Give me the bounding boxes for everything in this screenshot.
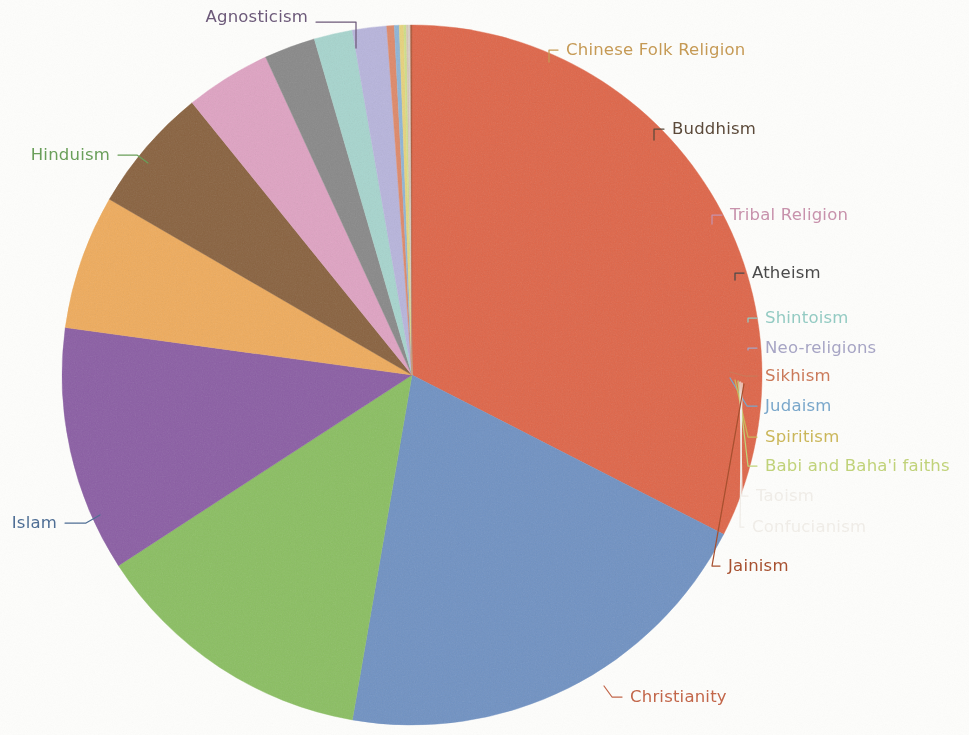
- slice-label-chinese-folk[interactable]: Chinese Folk Religion: [566, 42, 745, 59]
- slice-label-spiritism[interactable]: Spiritism: [765, 429, 839, 446]
- slice-label-jainism[interactable]: Jainism: [728, 558, 789, 575]
- pie-chart-figure: AgnosticismChinese Folk ReligionBuddhism…: [0, 0, 969, 735]
- slice-label-neo-religions[interactable]: Neo-religions: [765, 340, 876, 357]
- slice-label-confucianism[interactable]: Confucianism: [752, 519, 866, 536]
- slice-label-tribal-religion[interactable]: Tribal Religion: [730, 207, 848, 224]
- slice-label-sikhism[interactable]: Sikhism: [765, 368, 831, 385]
- slice-label-atheism[interactable]: Atheism: [752, 265, 821, 282]
- slice-label-buddhism[interactable]: Buddhism: [672, 121, 756, 138]
- slice-label-islam[interactable]: Islam: [12, 515, 57, 532]
- slice-label-taoism[interactable]: Taoism: [756, 488, 814, 505]
- slice-label-hinduism[interactable]: Hinduism: [31, 147, 110, 164]
- slice-label-judaism[interactable]: Judaism: [765, 398, 832, 415]
- slice-label-shintoism[interactable]: Shintoism: [765, 310, 849, 327]
- slice-label-agnosticism[interactable]: Agnosticism: [206, 9, 309, 26]
- slice-label-christianity[interactable]: Christianity: [630, 689, 727, 706]
- slice-label-babi-bahai[interactable]: Babi and Baha'i faiths: [765, 458, 950, 475]
